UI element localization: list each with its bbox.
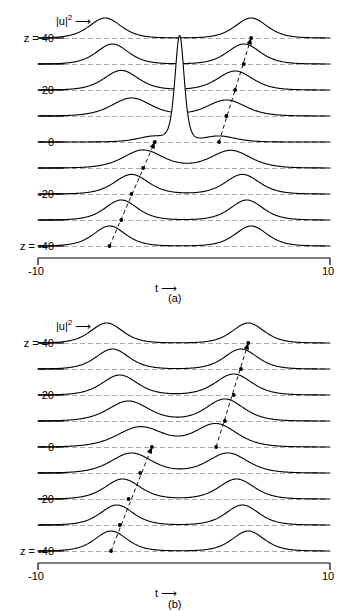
amplitude-axis-label-b: |u|2 ⟶ bbox=[56, 317, 91, 333]
amplitude-label-text-b: |u| bbox=[56, 320, 68, 332]
z-axis-tick-b-20: 20 bbox=[2, 390, 54, 401]
panel-a: |u|2 ⟶ z = 40 20 0 -20 z = -40 -10 10 t … bbox=[0, 0, 354, 300]
z-axis-tick-a-20: 20 bbox=[2, 85, 54, 96]
amplitude-label-text-a: |u| bbox=[56, 15, 68, 27]
amplitude-axis-label-a: |u|2 ⟶ bbox=[56, 12, 91, 28]
panel-b: |u|2 ⟶ z = 40 20 0 20 z = -40 -10 10 t ⟶… bbox=[0, 300, 354, 611]
panel-b-caption: (b) bbox=[168, 599, 181, 610]
panel-a-plot bbox=[0, 0, 354, 300]
z-axis-tick-a-neg40: z = -40 bbox=[2, 241, 54, 252]
z-axis-tick-b-40: z = 40 bbox=[2, 338, 54, 349]
x-axis-min-label-b: -10 bbox=[28, 571, 44, 582]
soliton-collision-figure: |u|2 ⟶ z = 40 20 0 -20 z = -40 -10 10 t … bbox=[0, 0, 354, 611]
x-axis-name-text-b: t bbox=[155, 587, 158, 599]
z-axis-tick-a-0: 0 bbox=[2, 137, 54, 148]
amplitude-label-exp-b: 2 bbox=[68, 318, 72, 327]
x-axis-min-label-a: -10 bbox=[28, 266, 44, 277]
z-axis-tick-b-0: 0 bbox=[2, 442, 54, 453]
z-axis-tick-a-neg20: -20 bbox=[2, 189, 54, 200]
x-axis-max-label-a: 10 bbox=[322, 266, 334, 277]
amplitude-arrow-b: ⟶ bbox=[75, 320, 91, 333]
x-axis-name-text-a: t bbox=[155, 282, 158, 294]
amplitude-arrow-a: ⟶ bbox=[75, 15, 91, 28]
amplitude-label-exp-a: 2 bbox=[68, 13, 72, 22]
z-axis-tick-b-neg20: 20 bbox=[2, 494, 54, 505]
z-axis-tick-a-40: z = 40 bbox=[2, 33, 54, 44]
z-axis-tick-b-neg40: z = -40 bbox=[2, 546, 54, 557]
x-axis-max-label-b: 10 bbox=[322, 571, 334, 582]
